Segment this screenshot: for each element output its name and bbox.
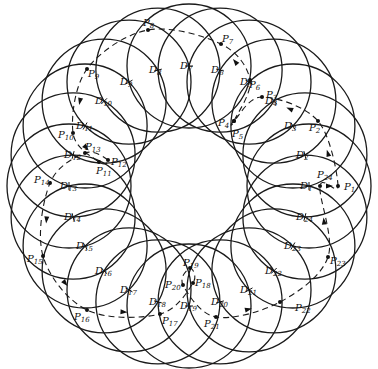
point-marker-20: [181, 283, 185, 287]
point-label-24: P24: [316, 169, 333, 182]
point-marker-5: [232, 119, 236, 123]
disk-label-10: D10: [94, 95, 112, 108]
disk-label-21: D21: [239, 284, 257, 297]
arrowhead-icon: [231, 57, 239, 66]
disk-label-17: D17: [119, 284, 137, 297]
disk-label-11: D11: [75, 120, 93, 133]
point-label-4: P4: [217, 117, 229, 130]
point-label-20: P20: [164, 279, 181, 292]
point-marker-21: [214, 315, 218, 319]
point-marker-16: [85, 308, 89, 312]
point-marker-1: [336, 184, 340, 188]
point-label-23: P23: [329, 255, 346, 268]
point-label-14: P14: [33, 174, 50, 187]
point-marker-12: [106, 158, 110, 162]
point-marker-22: [278, 300, 282, 304]
point-marker-11: [97, 160, 101, 164]
disk-label-18: D18: [148, 296, 166, 309]
disk-label-13: D13: [59, 180, 77, 193]
disk-label-3: D3: [283, 120, 297, 133]
point-label-22: P22: [294, 302, 311, 315]
point-label-19: P19: [182, 257, 199, 270]
point-label-18: P18: [194, 277, 211, 290]
point-marker-24: [318, 184, 322, 188]
arrowhead-icon: [324, 149, 331, 157]
point-label-6: P6: [248, 79, 261, 92]
point-label-15: P15: [26, 253, 43, 266]
point-label-9: P9: [87, 68, 100, 81]
disk-label-12: D12: [63, 149, 81, 162]
disk-label-1: D1: [299, 180, 313, 193]
point-label-1: P1: [343, 181, 355, 194]
disk-ring-diagram: D1D2D3D4D5D6D7D8D9D10D11D12D13D14D15D16D…: [0, 0, 378, 369]
disk-label-22: D22: [264, 265, 282, 278]
point-label-2: P2: [308, 122, 321, 135]
point-marker-2: [316, 119, 320, 123]
point-label-10: P10: [57, 129, 74, 142]
disk-label-8: D8: [148, 64, 162, 77]
disk-label-9: D9: [119, 76, 133, 89]
arrowhead-icon: [77, 98, 83, 106]
arrowhead-icon: [326, 184, 333, 189]
point-marker-3: [260, 95, 264, 99]
disk-label-23: D23: [283, 240, 301, 253]
disk-label-15: D15: [75, 240, 93, 253]
disk-label-24: D24: [295, 211, 313, 224]
arrowhead-icon: [44, 216, 50, 223]
disk-label-2: D2: [295, 149, 309, 162]
arrowhead-icon: [285, 105, 293, 112]
